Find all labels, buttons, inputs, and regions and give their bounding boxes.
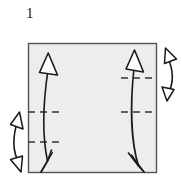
measure-arrow-outer-left (11, 112, 24, 172)
origami-figure (0, 0, 182, 182)
measure-arrow-outer-right (162, 48, 177, 101)
diagram-canvas: 1 (0, 0, 182, 182)
